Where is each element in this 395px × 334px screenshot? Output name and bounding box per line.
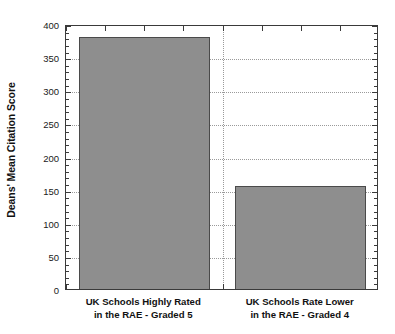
y-axis-minor-tick: [374, 172, 377, 173]
y-axis-minor-tick: [374, 33, 377, 34]
y-axis-minor-tick: [66, 132, 69, 133]
y-axis-minor-tick: [66, 39, 69, 40]
y-axis-minor-tick: [66, 178, 69, 179]
x-axis-tick: [223, 26, 224, 31]
x-axis-tick: [183, 26, 184, 31]
y-axis-minor-tick: [66, 238, 69, 239]
x-category-label-1: UK Schools Highly Ratedin the RAE - Grad…: [65, 296, 222, 321]
y-axis-minor-tick: [66, 66, 69, 67]
x-category-label-2: UK Schools Rate Lowerin the RAE - Graded…: [222, 296, 379, 321]
y-axis-minor-tick: [66, 152, 69, 153]
y-axis-minor-tick: [374, 165, 377, 166]
y-axis-major-tick: [372, 159, 377, 160]
y-axis-minor-tick: [66, 198, 69, 199]
y-axis-minor-tick: [374, 278, 377, 279]
y-axis-minor-tick: [374, 251, 377, 252]
y-axis-tick-label: 250: [43, 119, 59, 130]
y-axis-tick-label: 400: [43, 20, 59, 31]
y-axis-minor-tick: [66, 172, 69, 173]
y-axis-major-tick: [372, 225, 377, 226]
y-axis-minor-tick: [66, 79, 69, 80]
y-axis-minor-tick: [374, 284, 377, 285]
y-axis-minor-tick: [374, 245, 377, 246]
x-axis-tick: [66, 284, 67, 289]
y-axis-minor-tick: [66, 33, 69, 34]
y-axis-minor-tick: [374, 119, 377, 120]
y-axis-minor-tick: [374, 46, 377, 47]
x-axis-tick: [105, 26, 106, 31]
y-axis-minor-tick: [66, 139, 69, 140]
y-axis-minor-tick: [66, 72, 69, 73]
y-axis-minor-tick: [374, 271, 377, 272]
y-axis-minor-tick: [374, 198, 377, 199]
y-axis-major-tick: [66, 225, 71, 226]
y-axis-minor-tick: [374, 132, 377, 133]
y-axis-major-tick: [372, 26, 377, 27]
y-axis-title-text: Deans' Mean Citation Score: [5, 82, 17, 217]
y-axis-minor-tick: [66, 119, 69, 120]
y-axis-tick-label: 300: [43, 86, 59, 97]
y-axis-minor-tick: [66, 212, 69, 213]
y-axis-minor-tick: [374, 112, 377, 113]
y-axis-minor-tick: [66, 86, 69, 87]
y-axis-minor-tick: [66, 218, 69, 219]
y-axis-minor-tick: [374, 53, 377, 54]
y-axis-minor-tick: [66, 265, 69, 266]
y-axis-minor-tick: [66, 46, 69, 47]
y-axis-minor-tick: [66, 231, 69, 232]
y-axis-minor-tick: [374, 231, 377, 232]
y-axis-minor-tick: [374, 72, 377, 73]
y-axis-major-tick: [66, 258, 71, 259]
bar-chart: Deans' Mean Citation Score 0501001502002…: [0, 0, 395, 334]
plot-area: [65, 25, 378, 290]
y-axis-major-tick: [372, 125, 377, 126]
x-axis-category-labels: UK Schools Highly Ratedin the RAE - Grad…: [65, 296, 378, 334]
y-axis-major-tick: [372, 258, 377, 259]
y-axis-title: Deans' Mean Citation Score: [0, 0, 22, 300]
y-axis-major-tick: [372, 192, 377, 193]
y-axis-tick-label: 350: [43, 53, 59, 64]
y-axis-minor-tick: [66, 112, 69, 113]
y-axis-major-tick: [66, 159, 71, 160]
y-axis-minor-tick: [374, 218, 377, 219]
y-axis-minor-tick: [374, 212, 377, 213]
y-axis-tick-label: 200: [43, 152, 59, 163]
y-axis-minor-tick: [66, 245, 69, 246]
x-axis-tick: [144, 26, 145, 31]
x-axis-tick: [262, 26, 263, 31]
bar-1: [79, 37, 210, 289]
y-axis-minor-tick: [66, 106, 69, 107]
y-axis-minor-tick: [66, 278, 69, 279]
y-axis-major-tick: [66, 59, 71, 60]
y-axis-minor-tick: [374, 99, 377, 100]
y-axis-tick-labels: 050100150200250300350400: [24, 0, 62, 334]
y-axis-minor-tick: [66, 165, 69, 166]
x-category-label-line: UK Schools Highly Rated: [65, 296, 222, 309]
x-category-label-line: in the RAE - Graded 4: [222, 309, 379, 322]
y-axis-minor-tick: [374, 185, 377, 186]
y-axis-minor-tick: [374, 238, 377, 239]
y-axis-minor-tick: [66, 145, 69, 146]
y-axis-minor-tick: [374, 139, 377, 140]
x-category-label-line: UK Schools Rate Lower: [222, 296, 379, 309]
y-axis-minor-tick: [66, 271, 69, 272]
y-axis-minor-tick: [66, 185, 69, 186]
bar-2: [235, 186, 366, 289]
y-axis-minor-tick: [66, 53, 69, 54]
y-axis-minor-tick: [374, 79, 377, 80]
y-axis-minor-tick: [374, 265, 377, 266]
y-axis-tick-label: 100: [43, 218, 59, 229]
y-axis-major-tick: [66, 192, 71, 193]
y-axis-major-tick: [66, 92, 71, 93]
x-axis-tick: [66, 26, 67, 31]
y-axis-minor-tick: [374, 66, 377, 67]
y-axis-minor-tick: [374, 178, 377, 179]
y-axis-minor-tick: [374, 39, 377, 40]
y-axis-tick-label: 0: [54, 285, 59, 296]
y-axis-minor-tick: [374, 106, 377, 107]
y-axis-minor-tick: [66, 251, 69, 252]
y-axis-major-tick: [66, 125, 71, 126]
y-axis-major-tick: [372, 92, 377, 93]
y-axis-minor-tick: [374, 152, 377, 153]
y-axis-tick-label: 150: [43, 185, 59, 196]
